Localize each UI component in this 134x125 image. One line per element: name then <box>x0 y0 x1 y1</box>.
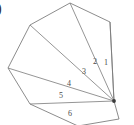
triangle-label-4: 4 <box>67 80 71 88</box>
fan-center-vertex-dot <box>112 99 116 103</box>
triangle-label-1: 1 <box>104 59 108 67</box>
polygon-diagram-svg <box>0 0 134 125</box>
octagon-outline <box>8 3 119 125</box>
triangle-label-6: 6 <box>68 110 72 118</box>
triangle-label-2: 2 <box>93 58 97 66</box>
polygon-triangulation-figure: ) 123456 <box>0 0 134 125</box>
triangle-label-5: 5 <box>59 92 63 100</box>
triangle-label-3: 3 <box>82 68 86 76</box>
